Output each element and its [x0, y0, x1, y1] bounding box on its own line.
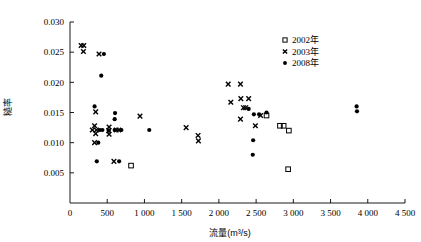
data-point-dot: [92, 104, 96, 108]
data-point-dot: [119, 128, 123, 132]
data-point-dot: [252, 112, 256, 116]
x-tick-label: 3 500: [320, 208, 341, 218]
data-point-x: [238, 82, 243, 87]
chart-legend: 2002年2003年2008年: [283, 34, 319, 68]
x-axis-ticks: 05001 0001 5002 0002 5003 0003 5004 0004…: [68, 199, 416, 218]
data-point-dot: [355, 109, 359, 113]
y-axis-label: 糙率: [2, 98, 13, 116]
legend-label-2008年: 2008年: [292, 57, 319, 68]
data-point-dot: [113, 117, 117, 121]
data-point-x: [93, 131, 98, 136]
data-point-x: [138, 114, 143, 119]
data-point-dot: [107, 129, 111, 133]
x-tick-label: 1 500: [172, 208, 193, 218]
x-tick-label: 0: [68, 208, 73, 218]
data-point-x: [246, 96, 251, 101]
scatter-chart: 05001 0001 5002 0002 5003 0003 5004 0004…: [0, 0, 421, 242]
data-point-dot: [355, 104, 359, 108]
data-point-x: [226, 82, 231, 87]
series-2003年: [79, 43, 263, 163]
data-point-x: [196, 133, 201, 138]
data-point-square-legend: [283, 38, 287, 42]
data-point-dot: [99, 74, 103, 78]
legend-label-2003年: 2003年: [292, 46, 319, 57]
data-point-dot: [247, 107, 251, 111]
data-point-x: [239, 96, 244, 101]
data-point-dot: [147, 128, 151, 132]
data-point-square: [286, 167, 291, 172]
data-point-x: [253, 123, 258, 128]
y-axis-ticks: 0.0050.0100.0150.0200.0250.030: [44, 17, 74, 178]
data-point-x: [93, 110, 98, 115]
data-point-dot: [251, 153, 255, 157]
x-tick-label: 2 000: [209, 208, 230, 218]
data-point-dot: [113, 111, 117, 115]
y-tick-label: 0.030: [44, 17, 65, 27]
data-point-square: [129, 163, 134, 168]
data-point-x: [196, 139, 201, 144]
data-point-dot: [264, 110, 268, 114]
data-point-x: [112, 159, 117, 164]
data-point-dot: [95, 159, 99, 163]
y-tick-label: 0.015: [44, 108, 65, 118]
data-point-dot: [117, 159, 121, 163]
data-point-x: [229, 100, 234, 105]
x-tick-label: 4 500: [395, 208, 416, 218]
series-2008年: [92, 52, 359, 164]
data-point-dot: [257, 112, 261, 116]
data-point-x: [97, 52, 102, 57]
x-tick-label: 3 000: [283, 208, 304, 218]
chart-canvas: 05001 0001 5002 0002 5003 0003 5004 0004…: [0, 0, 421, 242]
data-point-dot: [100, 128, 104, 132]
data-point-x: [81, 43, 86, 48]
y-tick-label: 0.010: [44, 138, 65, 148]
x-tick-label: 500: [100, 208, 114, 218]
data-point-x-legend: [283, 49, 287, 53]
y-tick-label: 0.005: [44, 168, 65, 178]
data-point-dot: [113, 128, 117, 132]
legend-label-2002年: 2002年: [292, 34, 319, 45]
data-point-dot: [96, 141, 100, 145]
data-point-x: [92, 140, 97, 145]
series-2002年: [129, 113, 291, 171]
x-tick-label: 2 500: [246, 208, 267, 218]
data-point-x: [81, 49, 86, 54]
data-point-x: [238, 117, 243, 122]
data-point-x: [184, 125, 189, 130]
y-tick-label: 0.020: [44, 78, 65, 88]
x-tick-label: 4 000: [358, 208, 379, 218]
axes: [70, 22, 405, 203]
x-tick-label: 1 000: [134, 208, 155, 218]
data-point-dot: [251, 138, 255, 142]
x-axis-label: 流量(m³/s): [209, 227, 251, 238]
data-point-dot-legend: [283, 61, 287, 65]
y-tick-label: 0.025: [44, 47, 65, 57]
data-point-square: [287, 128, 292, 133]
data-point-dot: [102, 52, 106, 56]
